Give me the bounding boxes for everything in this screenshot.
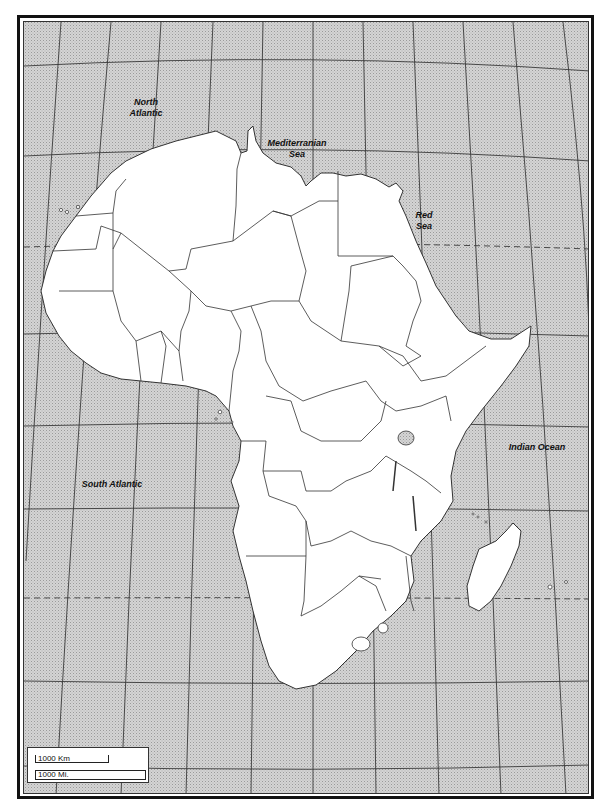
label-line: South Atlantic (72, 479, 152, 490)
label-line: Sea (404, 221, 444, 232)
label-line: Sea (257, 149, 337, 160)
scale-legend: 1000 Km 1000 Mi. (27, 747, 149, 783)
label-line: Mediterranian (257, 138, 337, 149)
label-line: North (116, 97, 176, 108)
label-north-atlantic: North Atlantic (116, 97, 176, 119)
scale-bar-km: 1000 Km (35, 755, 109, 763)
map-area: North Atlantic Mediterranian Sea Red Sea… (23, 21, 589, 794)
label-red-sea: Red Sea (404, 210, 444, 232)
label-line: Atlantic (116, 108, 176, 119)
scale-mi-label: 1000 Mi. (38, 770, 69, 779)
scale-km-label: 1000 Km (38, 754, 70, 763)
label-indian-ocean: Indian Ocean (502, 442, 572, 453)
label-mediterranean-sea: Mediterranian Sea (257, 138, 337, 160)
label-line: Indian Ocean (502, 442, 572, 453)
swaziland (378, 623, 388, 633)
label-south-atlantic: South Atlantic (72, 479, 152, 490)
scale-bar-mi: 1000 Mi. (35, 770, 146, 780)
lake-victoria (398, 431, 414, 445)
lesotho (352, 637, 370, 651)
label-line: Red (404, 210, 444, 221)
